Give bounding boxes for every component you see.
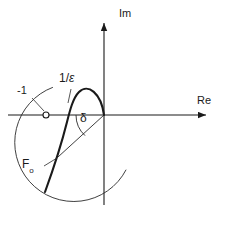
nyquist-locus-curve: [45, 89, 104, 192]
epsilon-radius-label: 1/ε: [59, 72, 74, 84]
epsilon-symbol: ε: [69, 71, 74, 85]
locus-label: Fo: [22, 158, 34, 173]
figure-container: Im Re -1 1/ε δ Fo: [0, 0, 230, 228]
epsilon-radius-numerator: 1/: [59, 71, 69, 85]
critical-point-label: -1: [17, 85, 27, 96]
complex-plane-diagram: [0, 0, 230, 228]
epsilon-leader-line: [68, 89, 71, 103]
real-axis-label: Re: [197, 95, 211, 106]
epsilon-circle-arc: [15, 87, 126, 201]
delta-angle-label: δ: [80, 112, 87, 124]
critical-point-marker: [43, 112, 49, 118]
imaginary-axis-label: Im: [119, 8, 131, 19]
locus-label-subscript: o: [29, 166, 33, 175]
minus-one-leader-line: [32, 98, 44, 111]
